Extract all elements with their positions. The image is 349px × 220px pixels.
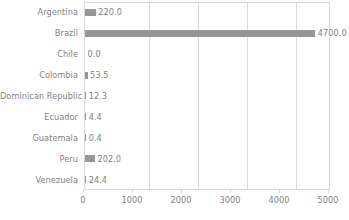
- value-label-venezuela: 24.4: [89, 175, 107, 185]
- value-label-chile: 0.0: [88, 49, 101, 59]
- bar-row: Guatemala0.4: [0, 127, 349, 148]
- value-label-brazil: 4700.0: [318, 28, 347, 38]
- x-tick-label-5000: 5000: [317, 195, 338, 205]
- category-label-guatemala: Guatemala: [0, 133, 78, 143]
- category-label-argentina: Argentina: [0, 7, 78, 17]
- x-tick-mark-4000: [279, 190, 280, 193]
- category-label-colombia: Colombia: [0, 70, 78, 80]
- bar-row: Brazil4700.0: [0, 23, 349, 44]
- x-tick-label-2000: 2000: [170, 195, 191, 205]
- x-tick-label-0: 0: [80, 195, 85, 205]
- bar-row: Dominican Republic12.3: [0, 86, 349, 107]
- x-tick-mark-1000: [132, 190, 133, 193]
- bar-row: Colombia53.5: [0, 65, 349, 86]
- bar-brazil: [85, 30, 315, 37]
- x-axis: 010002000300040005000: [84, 190, 330, 212]
- bar-row: Venezuela24.4: [0, 169, 349, 190]
- x-tick-mark-5000: [328, 190, 329, 193]
- bar-argentina: [85, 9, 96, 16]
- x-tick-label-4000: 4000: [268, 195, 289, 205]
- bar-guatemala: [85, 134, 86, 141]
- x-tick-label-1000: 1000: [121, 195, 142, 205]
- x-tick-mark-2000: [181, 190, 182, 193]
- category-label-dominican-republic: Dominican Republic: [0, 91, 78, 101]
- value-label-peru: 202.0: [97, 154, 121, 164]
- bar-row: Chile0.0: [0, 44, 349, 65]
- value-label-ecuador: 4.4: [89, 112, 102, 122]
- bar-row: Peru202.0: [0, 148, 349, 169]
- bar-colombia: [85, 72, 88, 79]
- category-label-peru: Peru: [0, 154, 78, 164]
- bar-rows: Argentina220.0Brazil4700.0Chile0.0Colomb…: [0, 2, 349, 190]
- bar-peru: [85, 155, 95, 162]
- bar-row: Argentina220.0: [0, 2, 349, 23]
- bar-ecuador: [85, 113, 86, 120]
- value-label-argentina: 220.0: [98, 7, 122, 17]
- bar-row: Ecuador4.4: [0, 106, 349, 127]
- bar-chart: Argentina220.0Brazil4700.0Chile0.0Colomb…: [0, 0, 349, 220]
- category-label-brazil: Brazil: [0, 28, 78, 38]
- category-label-venezuela: Venezuela: [0, 175, 78, 185]
- category-label-chile: Chile: [0, 49, 78, 59]
- bar-dominican-republic: [85, 92, 86, 99]
- category-label-ecuador: Ecuador: [0, 112, 78, 122]
- value-label-guatemala: 0.4: [89, 133, 102, 143]
- x-tick-mark-3000: [230, 190, 231, 193]
- x-tick-label-3000: 3000: [219, 195, 240, 205]
- value-label-colombia: 53.5: [90, 70, 108, 80]
- bar-venezuela: [85, 176, 86, 183]
- x-tick-mark-0: [83, 190, 84, 193]
- value-label-dominican-republic: 12.3: [89, 91, 107, 101]
